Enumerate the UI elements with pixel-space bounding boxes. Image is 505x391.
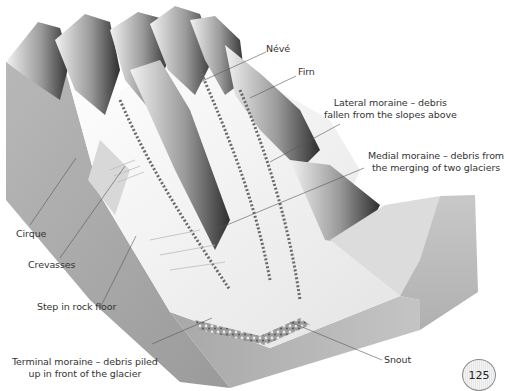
label-terminal-moraine-line1: Terminal moraine – debris piled <box>12 356 158 368</box>
page-number-badge: 125 <box>462 359 496 391</box>
label-firn: Firn <box>298 66 315 78</box>
label-medial-moraine-line1: Medial moraine – debris from <box>368 150 504 162</box>
label-lateral-moraine-line2: fallen from the slopes above <box>324 109 457 121</box>
label-terminal-moraine: Terminal moraine – debris piled up in fr… <box>12 356 158 380</box>
label-crevasses: Crevasses <box>28 259 75 271</box>
label-lateral-moraine: Lateral moraine – debris fallen from the… <box>324 97 457 121</box>
label-lateral-moraine-line1: Lateral moraine – debris <box>324 97 457 109</box>
label-step-in-rock-floor: Step in rock floor <box>37 301 116 313</box>
label-terminal-moraine-line2: up in front of the glacier <box>12 368 158 380</box>
label-cirque: Cirque <box>16 228 46 240</box>
label-snout: Snout <box>384 354 411 366</box>
label-medial-moraine: Medial moraine – debris from the merging… <box>368 150 504 174</box>
page-number: 125 <box>469 369 490 382</box>
label-neve: Névé <box>266 43 290 55</box>
label-medial-moraine-line2: the merging of two glaciers <box>368 162 504 174</box>
